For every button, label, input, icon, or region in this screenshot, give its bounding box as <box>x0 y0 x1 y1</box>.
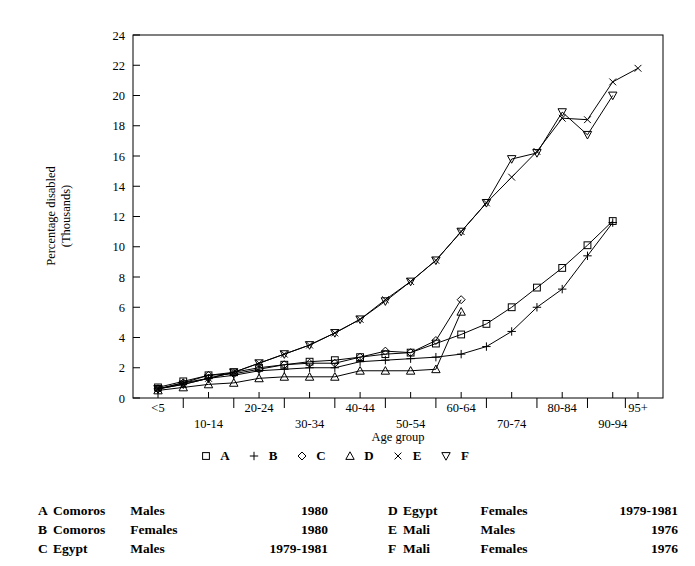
y-tick-label: 22 <box>113 59 126 73</box>
note-key-left: A <box>38 503 53 522</box>
legend-label-A: A <box>220 448 230 463</box>
y-tick-label: 18 <box>113 119 126 133</box>
x-tick-label: 95+ <box>628 401 648 415</box>
y-tick-label: 14 <box>113 180 126 194</box>
legend-label-D: D <box>364 448 373 463</box>
note-key-left: C <box>38 541 53 560</box>
note-years-left: 1980 <box>223 503 328 522</box>
chart-canvas: 024681012141618202224 <510-1420-2430-344… <box>0 0 695 566</box>
note-country-right: Mali <box>403 541 480 560</box>
note-key-right: D <box>388 503 403 522</box>
note-country-left: Comoros <box>53 503 130 522</box>
note-country-right: Egypt <box>403 503 480 522</box>
y-axis-title-line2: (Thousands) <box>59 185 73 248</box>
legend-key-table: AComorosMales1980DEgyptFemales1979-1981B… <box>38 503 678 560</box>
note-sex-right: Females <box>480 541 572 560</box>
notes-table: AComorosMales1980DEgyptFemales1979-1981B… <box>38 503 678 560</box>
x-tick-label: 90-94 <box>598 417 628 431</box>
note-sex-left: Males <box>130 541 222 560</box>
note-sex-right: Females <box>480 503 572 522</box>
note-years-right: 1979-1981 <box>573 503 678 522</box>
note-key-right: E <box>388 522 403 541</box>
note-gap <box>328 503 388 522</box>
x-tick-label: 30-34 <box>295 417 325 431</box>
note-country-left: Egypt <box>53 541 130 560</box>
y-tick-label: 20 <box>113 89 126 103</box>
note-gap <box>328 541 388 560</box>
y-tick-label: 6 <box>119 301 125 315</box>
y-tick-label: 0 <box>119 392 125 406</box>
legend-label-F: F <box>461 448 469 463</box>
x-tick-label: 80-84 <box>548 401 578 415</box>
note-country-left: Comoros <box>53 522 130 541</box>
x-tick-label: 60-64 <box>447 401 477 415</box>
note-sex-left: Females <box>130 522 222 541</box>
x-tick-label: <5 <box>151 401 164 415</box>
y-tick-label: 12 <box>113 210 126 224</box>
note-sex-right: Males <box>480 522 572 541</box>
x-tick-label: 70-74 <box>497 417 527 431</box>
note-sex-left: Males <box>130 503 222 522</box>
note-key-right: F <box>388 541 403 560</box>
legend-label-C: C <box>316 448 325 463</box>
y-tick-label: 24 <box>113 29 126 43</box>
note-years-right: 1976 <box>573 522 678 541</box>
chart-figure: 024681012141618202224 <510-1420-2430-344… <box>0 0 695 566</box>
y-tick-label: 2 <box>119 361 125 375</box>
y-tick-label: 16 <box>113 150 126 164</box>
notes-row: CEgyptMales1979-1981FMaliFemales1976 <box>38 541 678 560</box>
note-years-right: 1976 <box>573 541 678 560</box>
x-tick-label: 20-24 <box>244 401 274 415</box>
y-tick-label: 10 <box>113 240 126 254</box>
notes-row: AComorosMales1980DEgyptFemales1979-1981 <box>38 503 678 522</box>
x-tick-label: 10-14 <box>194 417 224 431</box>
x-tick-label: 40-44 <box>346 401 376 415</box>
y-axis-title-line1: Percentage disabled <box>44 165 58 265</box>
x-tick-label: 50-54 <box>396 417 426 431</box>
note-years-left: 1979-1981 <box>223 541 328 560</box>
note-key-left: B <box>38 522 53 541</box>
figure-background <box>0 0 695 566</box>
note-country-right: Mali <box>403 522 480 541</box>
y-tick-label: 8 <box>119 271 125 285</box>
note-gap <box>328 522 388 541</box>
legend-label-B: B <box>269 448 278 463</box>
x-axis-title: Age group <box>371 430 424 444</box>
note-years-left: 1980 <box>223 522 328 541</box>
y-tick-label: 4 <box>119 331 126 345</box>
legend-label-E: E <box>413 448 422 463</box>
notes-row: BComorosFemales1980EMaliMales1976 <box>38 522 678 541</box>
